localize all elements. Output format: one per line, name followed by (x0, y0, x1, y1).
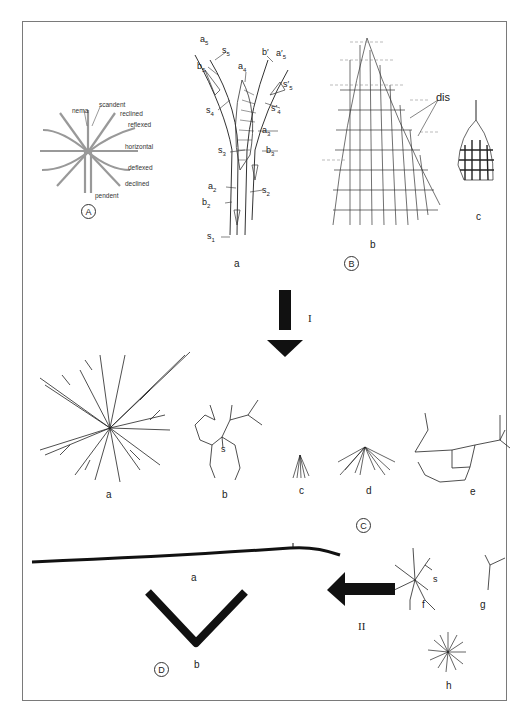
label-scandent: scandent (99, 102, 125, 109)
caption-d-a: a (191, 573, 197, 583)
label-pendent: pendent (95, 193, 119, 200)
label-dis: dis (436, 92, 450, 103)
label-s4: s4 (206, 106, 214, 117)
panel-a-orientation-diagram (40, 110, 138, 193)
label-horizontal: horizontal (125, 144, 153, 151)
label-s4-prime: s′4 (271, 104, 281, 115)
caption-b-b: b (370, 240, 376, 250)
panel-c-d-drawing (338, 447, 395, 475)
panel-c-b-drawing (195, 400, 262, 480)
label-a3: a3 (262, 126, 270, 137)
label-reflexed: reflexed (128, 122, 151, 129)
label-a2: a2 (208, 182, 216, 193)
arrow-i-label: I (308, 312, 312, 324)
label-a5-prime: a′5 (276, 49, 286, 60)
caption-c-h: h (446, 681, 452, 691)
panel-c-f-drawing (390, 548, 435, 610)
panel-c-e-drawing (415, 413, 510, 482)
label-s5: s5 (222, 46, 230, 57)
caption-d-b: b (194, 660, 200, 670)
caption-c-a: a (106, 490, 112, 500)
panel-c-h-drawing (428, 632, 466, 672)
panel-label-c: C (356, 518, 371, 533)
label-nema: nema (72, 108, 88, 115)
label-b5: b5 (197, 62, 205, 73)
label-s2: s2 (262, 186, 270, 197)
label-b2: b2 (202, 198, 210, 209)
panel-d-a-drawing (32, 548, 340, 562)
caption-c-g: g (480, 600, 486, 610)
caption-c-c: c (299, 486, 304, 496)
caption-c-e: e (470, 487, 476, 497)
panel-c-a-drawing (40, 352, 190, 482)
label-reclined: reclined (120, 111, 143, 118)
caption-c-f: f (422, 600, 425, 610)
arrow-i-down (267, 290, 303, 357)
label-s-c-b: s (221, 445, 226, 454)
caption-b-a: a (234, 259, 240, 269)
label-s5-prime: s′5 (283, 80, 293, 91)
caption-c-b: b (222, 490, 228, 500)
panel-c-c-drawing (293, 455, 309, 478)
label-a4: a4 (238, 62, 246, 73)
arrow-ii-label: II (358, 620, 365, 632)
panel-c-g-drawing (485, 555, 505, 590)
arrow-ii-left (327, 572, 395, 606)
caption-b-c: c (476, 212, 481, 222)
panel-label-a: A (81, 204, 96, 219)
panel-b-b-drawing (333, 38, 440, 225)
panel-d-b-drawing (148, 592, 245, 643)
label-s1: s1 (207, 232, 215, 243)
label-b3: b3 (266, 146, 274, 157)
caption-c-d: d (366, 486, 372, 496)
label-a5: a5 (200, 35, 208, 46)
label-declined: declined (125, 181, 149, 188)
label-s-c-f: s (433, 575, 438, 584)
label-b-prime: b′ (262, 48, 269, 57)
panel-label-d: D (154, 662, 169, 677)
panel-b-c-drawing (458, 100, 494, 180)
label-s3: s3 (218, 146, 226, 157)
label-deflexed: deflexed (128, 165, 153, 172)
panel-label-b: B (344, 256, 359, 271)
